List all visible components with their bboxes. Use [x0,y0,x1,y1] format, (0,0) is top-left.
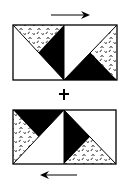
bottom-left-unit [13,110,64,164]
right-arrow-icon [51,11,90,19]
bottom-block [13,110,116,164]
top-block [13,25,117,80]
top-right-unit [64,25,117,80]
plus-icon [59,89,69,100]
left-arrow-icon [40,171,77,179]
bottom-right-unit [64,110,116,164]
quilt-diagram [0,0,125,189]
top-left-unit [13,25,64,80]
